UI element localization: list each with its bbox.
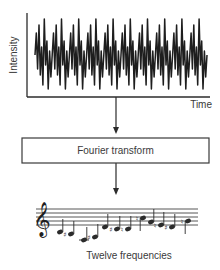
- note-icon: ♯: [63, 221, 74, 239]
- natural-icon: ♮: [154, 222, 157, 230]
- sharp-icon: ♯: [87, 234, 90, 242]
- x-axis-label: Time: [190, 99, 212, 110]
- fourier-transform-box: Fourier transform: [22, 138, 209, 163]
- treble-clef-icon: 𝄞: [33, 201, 51, 238]
- down-arrow-icon: [113, 97, 119, 134]
- musical-staff: 𝄞 ♯♯♯♮♮♮♯♮: [33, 201, 198, 243]
- note-icon: ♯: [87, 224, 98, 242]
- natural-icon: ♮: [181, 218, 184, 226]
- fourier-transform-label: Fourier transform: [77, 145, 154, 156]
- caption: Twelve frequencies: [86, 250, 172, 261]
- note-icon: ♮: [181, 218, 192, 235]
- sharp-icon: ♯: [109, 226, 112, 234]
- natural-icon: ♮: [121, 226, 124, 234]
- down-arrow-icon: [113, 163, 119, 195]
- waveform-line: [35, 19, 207, 89]
- sharp-icon: ♯: [164, 224, 167, 232]
- time-series-plot: Intensity Time: [8, 13, 212, 110]
- sharp-icon: ♯: [63, 231, 66, 239]
- natural-icon: ♮: [136, 215, 139, 223]
- staff-lines: [36, 209, 198, 225]
- note-icon: ♮: [136, 215, 147, 232]
- note-icon: [101, 214, 108, 230]
- fourier-diagram: Intensity Time Fourier transform 𝄞 ♯♯♯♮♮…: [0, 0, 220, 270]
- frequency-notes: ♯♯♯♮♮♮♯♮: [56, 209, 191, 243]
- y-axis-label: Intensity: [8, 36, 19, 73]
